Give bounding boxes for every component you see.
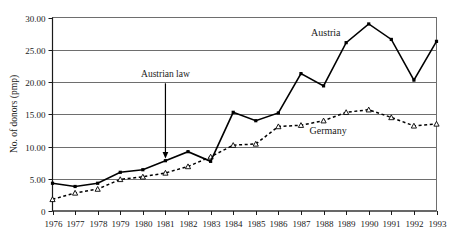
series-label-germany: Germany: [309, 125, 346, 136]
x-tick-label-1990: 1990: [361, 219, 380, 229]
chart-container: 05.0010.0015.0020.0025.0030.00 197619771…: [0, 0, 453, 238]
austria-point-1985: [254, 119, 257, 122]
y-tick-label-30: 30.00: [25, 14, 46, 24]
austria-point-1977: [73, 185, 76, 188]
austria-point-1990: [367, 22, 370, 25]
x-tick-label-1993: 1993: [429, 219, 448, 229]
austria-point-1981: [164, 159, 167, 162]
austrian-law-arrow-head: [163, 152, 169, 159]
austria-point-1986: [277, 111, 280, 114]
x-tick-labels-group: 1976197719781979198019811982198319841985…: [45, 219, 448, 229]
austria-line: [53, 24, 437, 187]
austria-point-1989: [345, 41, 348, 44]
x-tick-label-1989: 1989: [338, 219, 357, 229]
y-tick-label-10: 10.00: [25, 143, 46, 153]
x-tick-label-1983: 1983: [203, 219, 222, 229]
germany-point-1989: [344, 110, 349, 115]
x-tick-label-1980: 1980: [135, 219, 154, 229]
x-tick-label-1987: 1987: [293, 219, 312, 229]
austria-point-1993: [435, 40, 438, 43]
y-tick-label-25: 25.00: [25, 46, 46, 56]
x-tick-label-1978: 1978: [90, 219, 109, 229]
x-tick-label-1992: 1992: [406, 219, 424, 229]
austria-point-1979: [119, 171, 122, 174]
germany-point-1988: [321, 118, 326, 123]
germany-line: [53, 110, 437, 200]
series-germany: [50, 107, 439, 201]
germany-point-1993: [434, 121, 439, 126]
austria-point-1991: [390, 38, 393, 41]
donor-rate-line-chart: 05.0010.0015.0020.0025.0030.00 197619771…: [0, 0, 453, 238]
y-tick-labels-group: 05.0010.0015.0020.0025.0030.00: [25, 14, 46, 217]
x-tick-label-1985: 1985: [248, 219, 267, 229]
x-tick-label-1982: 1982: [180, 219, 198, 229]
x-tick-label-1984: 1984: [225, 219, 244, 229]
austria-markers: [51, 22, 438, 188]
series-austria: [51, 22, 438, 188]
y-tick-label-20: 20.00: [25, 78, 46, 88]
austrian-law-label: Austrian law: [141, 69, 190, 79]
austria-point-1978: [96, 182, 99, 185]
y-tick-label-5: 5.00: [30, 175, 46, 185]
austria-point-1987: [299, 72, 302, 75]
austria-point-1988: [322, 84, 325, 87]
x-tick-label-1986: 1986: [270, 219, 289, 229]
austria-point-1982: [186, 150, 189, 153]
austria-point-1980: [141, 168, 144, 171]
austria-point-1984: [232, 111, 235, 114]
germany-point-1991: [389, 115, 394, 120]
austria-point-1992: [412, 78, 415, 81]
x-tick-label-1991: 1991: [383, 219, 401, 229]
x-tick-label-1979: 1979: [112, 219, 131, 229]
austria-point-1983: [209, 160, 212, 163]
austria-point-1976: [51, 182, 54, 185]
x-tick-marks-group: [54, 211, 438, 215]
germany-markers: [50, 107, 439, 201]
series-label-austria: Austria: [311, 27, 341, 38]
gridlines-group: [53, 51, 437, 180]
germany-point-1978: [95, 186, 100, 191]
y-axis-title-group: No. of donors (pmp): [9, 75, 20, 153]
x-tick-label-1977: 1977: [67, 219, 86, 229]
x-tick-label-1976: 1976: [45, 219, 64, 229]
y-tick-label-0: 0: [41, 207, 46, 217]
y-tick-label-15: 15.00: [25, 110, 46, 120]
x-tick-label-1988: 1988: [316, 219, 335, 229]
x-tick-label-1981: 1981: [157, 219, 175, 229]
y-axis-title: No. of donors (pmp): [9, 75, 20, 153]
